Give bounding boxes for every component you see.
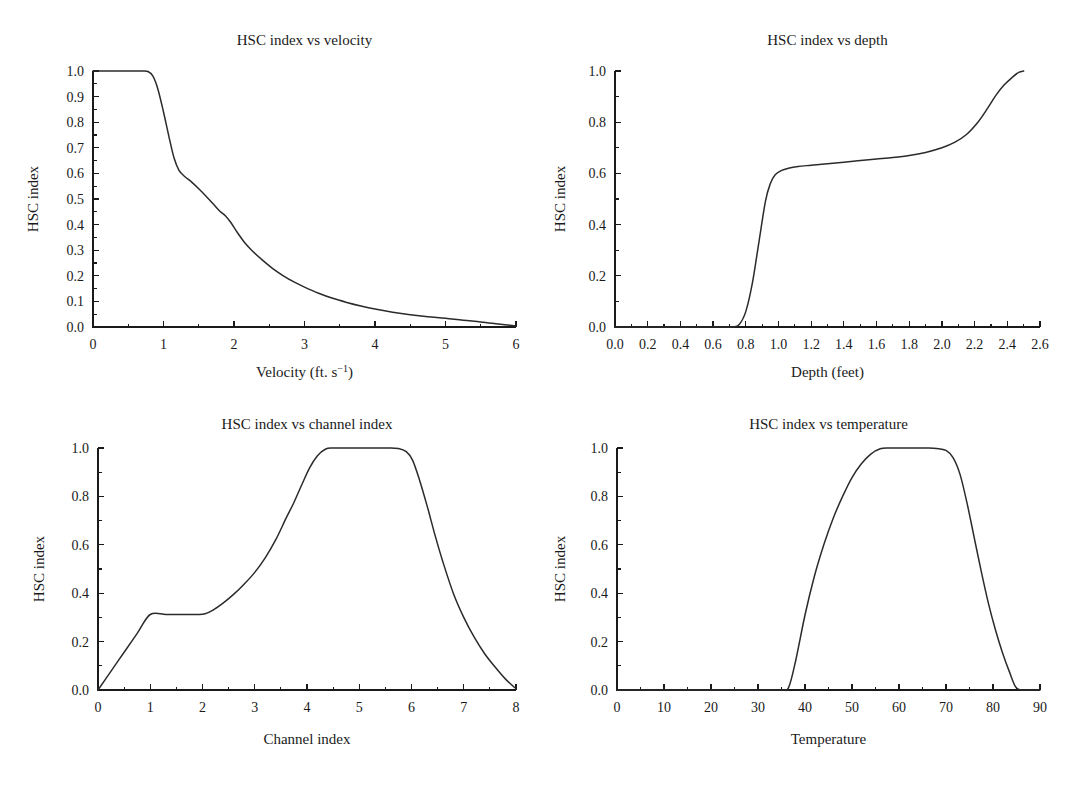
chart-panel-hsc-channel-index: HSC index vs channel index0.00.20.40.60.…: [0, 397, 537, 794]
x-tick-label: 4: [372, 337, 379, 352]
y-tick-label: 0.4: [72, 586, 90, 601]
x-axis-label-tail: ): [348, 364, 353, 381]
x-tick-label: 5: [356, 700, 363, 715]
y-tick-label: 0.8: [67, 115, 85, 130]
x-tick-label: 0.2: [639, 337, 657, 352]
x-tick-label: 10: [657, 700, 671, 715]
y-tick-label: 0.6: [589, 166, 607, 181]
y-tick-label: 0.0: [67, 320, 85, 335]
y-tick-label: 0.0: [72, 683, 90, 698]
chart-title: HSC index vs depth: [767, 32, 888, 48]
y-tick-label: 0.6: [591, 538, 609, 553]
x-tick-label: 1.4: [835, 337, 853, 352]
x-tick-label: 1.8: [900, 337, 918, 352]
y-tick-label: 0.2: [591, 635, 609, 650]
x-axis-label: Channel index: [263, 731, 351, 747]
x-tick-label: 80: [986, 700, 1000, 715]
axis-lines: [615, 71, 1040, 327]
chart-render-group: HSC index vs velocity0.00.10.20.30.40.50…: [25, 32, 520, 381]
x-tick-label: 1.0: [770, 337, 788, 352]
x-tick-label: 50: [845, 700, 859, 715]
y-tick-label: 0.9: [67, 90, 85, 105]
x-tick-label: 0: [95, 700, 102, 715]
x-axis-label: Velocity (ft. s−1): [256, 363, 353, 381]
x-tick-label: 1: [160, 337, 167, 352]
y-tick-label: 0.4: [67, 218, 85, 233]
x-tick-label: 2.6: [1031, 337, 1049, 352]
axis-lines: [617, 448, 1040, 690]
chart-title: HSC index vs channel index: [222, 416, 393, 432]
x-tick-label: 60: [892, 700, 906, 715]
x-tick-label: 30: [751, 700, 765, 715]
data-curve: [98, 448, 516, 690]
x-tick-label: 2: [231, 337, 238, 352]
x-tick-label: 3: [301, 337, 308, 352]
chart-title: HSC index vs velocity: [237, 32, 373, 48]
x-tick-label: 2.2: [966, 337, 984, 352]
x-tick-label: 2: [199, 700, 206, 715]
chart-svg-hsc-depth: HSC index vs depth0.00.20.40.60.81.00.00…: [537, 0, 1074, 397]
y-tick-label: 1.0: [72, 441, 90, 456]
y-tick-label: 0.0: [589, 320, 607, 335]
chart-panel-hsc-depth: HSC index vs depth0.00.20.40.60.81.00.00…: [537, 0, 1074, 397]
x-tick-label: 1.6: [868, 337, 886, 352]
x-tick-label: 70: [939, 700, 953, 715]
x-tick-label: 5: [442, 337, 449, 352]
x-tick-label: 2.0: [933, 337, 951, 352]
x-tick-label: 0.0: [606, 337, 624, 352]
x-tick-label: 0.6: [704, 337, 722, 352]
data-curve: [93, 71, 516, 326]
y-tick-label: 0.8: [589, 115, 607, 130]
y-tick-label: 0.6: [67, 166, 85, 181]
chart-svg-hsc-temperature: HSC index vs temperature0.00.20.40.60.81…: [537, 397, 1074, 794]
y-tick-label: 0.8: [591, 489, 609, 504]
x-tick-label: 0: [90, 337, 97, 352]
y-tick-label: 0.0: [591, 683, 609, 698]
x-tick-label: 6: [408, 700, 415, 715]
x-tick-label: 7: [460, 700, 467, 715]
figure-panel-grid: HSC index vs velocity0.00.10.20.30.40.50…: [0, 0, 1074, 794]
x-tick-label: 2.4: [999, 337, 1017, 352]
y-tick-label: 0.7: [67, 141, 85, 156]
y-tick-label: 0.3: [67, 243, 85, 258]
y-tick-label: 0.6: [72, 538, 90, 553]
y-tick-label: 1.0: [591, 441, 609, 456]
y-tick-label: 0.4: [589, 218, 607, 233]
y-axis-label: HSC index: [25, 165, 41, 232]
chart-svg-hsc-channel-index: HSC index vs channel index0.00.20.40.60.…: [0, 397, 537, 794]
axis-lines: [98, 448, 516, 690]
chart-render-group: HSC index vs channel index0.00.20.40.60.…: [31, 416, 520, 747]
y-axis-label: HSC index: [552, 535, 568, 602]
axis-lines: [93, 71, 516, 327]
y-axis-label: HSC index: [552, 165, 568, 232]
x-tick-label: 0: [614, 700, 621, 715]
y-axis-label: HSC index: [31, 535, 47, 602]
data-curve: [615, 71, 1024, 327]
x-tick-label: 3: [251, 700, 258, 715]
x-tick-label: 1: [147, 700, 154, 715]
y-tick-label: 0.5: [67, 192, 85, 207]
x-axis-label-base: Velocity (ft. s: [256, 364, 337, 381]
y-tick-label: 0.2: [67, 269, 85, 284]
chart-panel-hsc-temperature: HSC index vs temperature0.00.20.40.60.81…: [537, 397, 1074, 794]
x-tick-label: 90: [1033, 700, 1047, 715]
y-tick-label: 1.0: [589, 64, 607, 79]
x-axis-label-superscript: −1: [337, 363, 348, 374]
x-tick-label: 40: [798, 700, 812, 715]
chart-panel-hsc-velocity: HSC index vs velocity0.00.10.20.30.40.50…: [0, 0, 537, 397]
x-tick-label: 0.8: [737, 337, 755, 352]
y-tick-label: 0.2: [72, 635, 90, 650]
x-tick-label: 6: [513, 337, 520, 352]
x-axis-label: Temperature: [791, 731, 867, 747]
y-tick-label: 0.2: [589, 269, 607, 284]
y-tick-label: 0.4: [591, 586, 609, 601]
chart-render-group: HSC index vs temperature0.00.20.40.60.81…: [552, 416, 1047, 747]
y-tick-label: 0.1: [67, 294, 85, 309]
y-tick-label: 1.0: [67, 64, 85, 79]
x-tick-label: 0.4: [672, 337, 690, 352]
x-axis-label: Depth (feet): [791, 364, 864, 381]
data-curve: [617, 448, 1040, 691]
chart-svg-hsc-velocity: HSC index vs velocity0.00.10.20.30.40.50…: [0, 0, 537, 397]
chart-render-group: HSC index vs depth0.00.20.40.60.81.00.00…: [552, 32, 1049, 381]
x-tick-label: 8: [513, 700, 520, 715]
